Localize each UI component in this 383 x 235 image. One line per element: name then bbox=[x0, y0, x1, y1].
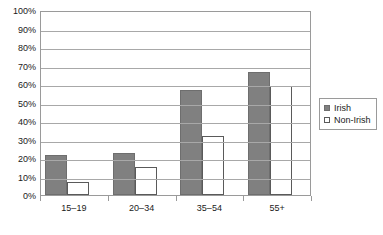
y-tick-label: 80% bbox=[0, 44, 36, 53]
x-tick-label: 55+ bbox=[243, 203, 311, 214]
bar-non-irish-0 bbox=[67, 182, 89, 195]
legend-item[interactable]: Irish bbox=[324, 102, 371, 114]
plot-area bbox=[40, 11, 311, 196]
y-tick-label: 40% bbox=[0, 118, 36, 127]
legend-item[interactable]: Non-Irish bbox=[324, 114, 371, 126]
filled-square-icon bbox=[324, 105, 330, 111]
y-tick-label: 100% bbox=[0, 7, 36, 16]
gridline bbox=[41, 160, 310, 161]
y-axis: 100%90%80%70%60%50%40%30%20%10%0% bbox=[0, 0, 36, 235]
bar-non-irish-2 bbox=[202, 136, 224, 195]
bar-non-irish-1 bbox=[135, 167, 157, 195]
x-axis-tick bbox=[40, 196, 41, 201]
x-axis: 15–1920–3435–5455+ bbox=[40, 203, 311, 223]
gridline bbox=[41, 123, 310, 124]
bar-chart: 100%90%80%70%60%50%40%30%20%10%0% 15–192… bbox=[0, 0, 383, 235]
legend-label: Non-Irish bbox=[334, 114, 371, 126]
outline-square-icon bbox=[324, 117, 330, 123]
x-axis-tick bbox=[243, 196, 244, 201]
y-tick-label: 60% bbox=[0, 81, 36, 90]
x-axis-tick bbox=[108, 196, 109, 201]
gridline bbox=[41, 49, 310, 50]
x-tick-label: 20–34 bbox=[108, 203, 176, 214]
gridline bbox=[41, 31, 310, 32]
y-tick-label: 30% bbox=[0, 137, 36, 146]
gridline bbox=[41, 68, 310, 69]
y-tick-label: 70% bbox=[0, 63, 36, 72]
x-axis-tick bbox=[176, 196, 177, 201]
gridline bbox=[41, 105, 310, 106]
gridline bbox=[41, 179, 310, 180]
chart-legend: IrishNon-Irish bbox=[319, 98, 377, 130]
x-tick-label: 35–54 bbox=[176, 203, 244, 214]
legend-label: Irish bbox=[334, 102, 351, 114]
gridline bbox=[41, 142, 310, 143]
y-tick-label: 0% bbox=[0, 192, 36, 201]
bar-irish-3 bbox=[248, 72, 270, 195]
y-tick-label: 90% bbox=[0, 26, 36, 35]
x-tick-label: 15–19 bbox=[40, 203, 108, 214]
x-axis-tick bbox=[311, 196, 312, 201]
y-tick-label: 50% bbox=[0, 100, 36, 109]
y-tick-label: 10% bbox=[0, 174, 36, 183]
gridline bbox=[41, 86, 310, 87]
y-tick-label: 20% bbox=[0, 155, 36, 164]
bars-layer bbox=[41, 12, 310, 195]
